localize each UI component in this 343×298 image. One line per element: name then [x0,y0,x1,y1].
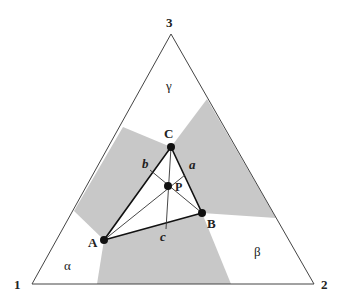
vertex-1-label: 1 [14,277,21,292]
point-b-dot [198,209,206,217]
region-gamma-label: γ [165,78,172,93]
region-alpha-label: α [64,258,71,273]
point-p-dot [164,182,172,190]
point-a-dot [100,236,108,244]
region-beta-label: β [254,244,261,259]
point-c-dot [167,143,175,151]
point-b-label: B [207,216,216,231]
point-a-label: A [88,235,98,250]
side-b-label: b [142,156,149,171]
side-c-label: c [160,229,166,244]
vertex-2-label: 2 [321,277,328,292]
point-p-label: P [175,180,182,194]
point-c-label: C [164,126,173,141]
vertex-3-label: 3 [166,15,173,30]
side-a-label: a [189,157,196,172]
ternary-diagram: 3 1 2 γ α β C A B P b a c [0,0,343,298]
